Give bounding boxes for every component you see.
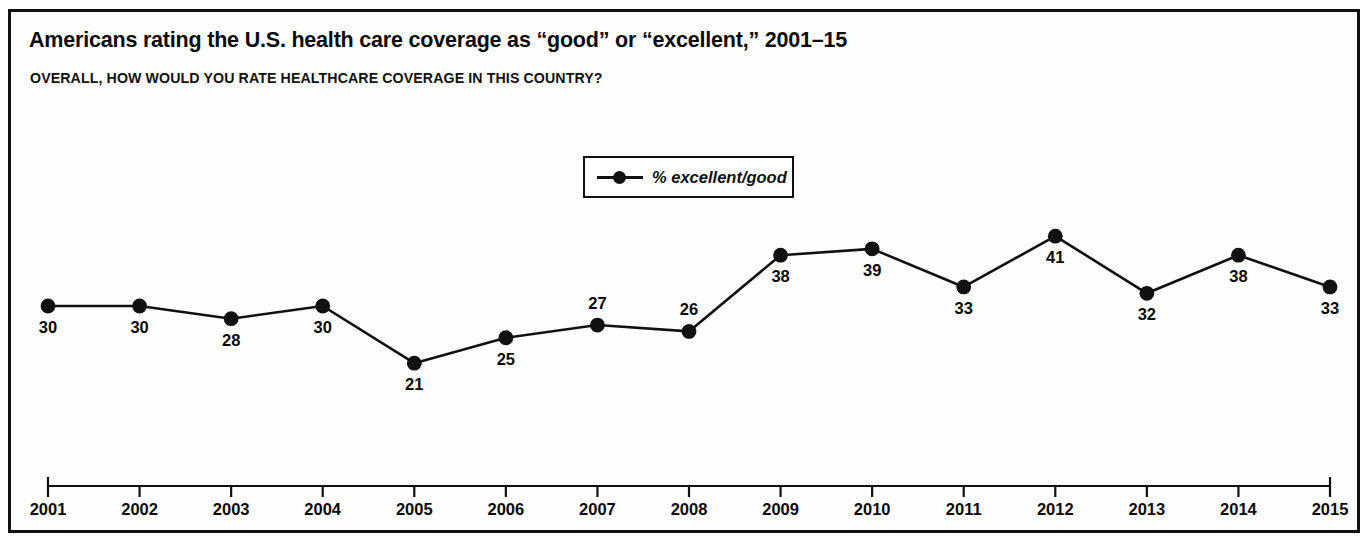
data-point bbox=[590, 318, 605, 333]
data-point-label: 27 bbox=[588, 294, 606, 313]
x-tick-label: 2007 bbox=[579, 500, 616, 519]
legend-label: % excellent/good bbox=[652, 168, 787, 187]
x-tick-label: 2001 bbox=[30, 500, 67, 519]
data-point-label: 30 bbox=[39, 318, 57, 337]
data-point bbox=[773, 248, 788, 263]
data-point-label: 25 bbox=[497, 350, 515, 369]
x-tick-label: 2011 bbox=[946, 500, 982, 519]
x-tick-label: 2015 bbox=[1312, 500, 1349, 519]
data-point bbox=[498, 330, 513, 345]
data-point bbox=[682, 324, 697, 339]
x-tick-label: 2004 bbox=[304, 500, 341, 519]
data-point bbox=[1323, 280, 1338, 295]
x-tick-label: 2002 bbox=[121, 500, 158, 519]
data-point bbox=[1048, 229, 1063, 244]
data-point-label: 30 bbox=[314, 318, 332, 337]
data-point bbox=[1139, 286, 1154, 301]
data-point-label: 32 bbox=[1138, 305, 1156, 324]
x-tick-label: 2006 bbox=[487, 500, 524, 519]
legend-marker-icon bbox=[597, 170, 643, 184]
data-point bbox=[865, 241, 880, 256]
x-tick-label: 2013 bbox=[1128, 500, 1165, 519]
chart-figure: Americans rating the U.S. health care co… bbox=[8, 9, 1360, 533]
data-point-label: 38 bbox=[1229, 267, 1247, 286]
data-point bbox=[1231, 248, 1246, 263]
x-tick-label: 2005 bbox=[396, 500, 433, 519]
x-axis bbox=[48, 477, 1330, 497]
chart-legend: % excellent/good bbox=[583, 156, 794, 198]
x-tick-label: 2010 bbox=[854, 500, 891, 519]
plot-area: % excellent/good 30302830212527263839334… bbox=[11, 12, 1360, 533]
data-point-label: 39 bbox=[863, 261, 881, 280]
data-point-label: 41 bbox=[1046, 248, 1064, 267]
data-point-label: 33 bbox=[955, 299, 973, 318]
x-tick-label: 2009 bbox=[762, 500, 799, 519]
x-tick-label: 2008 bbox=[671, 500, 708, 519]
data-point bbox=[41, 299, 56, 314]
data-point-label: 38 bbox=[771, 267, 789, 286]
data-point bbox=[407, 356, 422, 371]
data-point bbox=[132, 299, 147, 314]
data-point-label: 33 bbox=[1321, 299, 1339, 318]
x-tick-label: 2003 bbox=[213, 500, 250, 519]
data-point-label: 21 bbox=[405, 375, 423, 394]
line-chart-svg bbox=[11, 12, 1360, 533]
data-point bbox=[956, 280, 971, 295]
x-tick-label: 2012 bbox=[1037, 500, 1074, 519]
data-point bbox=[224, 311, 239, 326]
data-point bbox=[315, 299, 330, 314]
data-point-label: 30 bbox=[130, 318, 148, 337]
data-point-label: 28 bbox=[222, 331, 240, 350]
x-tick-label: 2014 bbox=[1220, 500, 1257, 519]
data-point-label: 26 bbox=[680, 300, 698, 319]
